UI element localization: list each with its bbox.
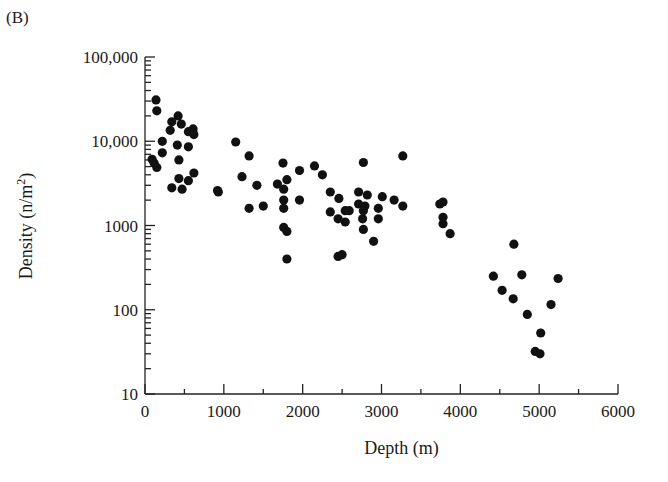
data-point bbox=[509, 240, 518, 249]
x-tick-label: 4000 bbox=[443, 402, 477, 421]
data-point bbox=[231, 137, 240, 146]
y-axis-title: Density (n/m2) bbox=[14, 173, 37, 280]
data-point bbox=[279, 185, 288, 194]
data-point bbox=[438, 219, 447, 228]
data-point bbox=[158, 137, 167, 146]
data-point bbox=[374, 204, 383, 213]
data-point bbox=[252, 181, 261, 190]
data-point bbox=[523, 310, 532, 319]
data-point bbox=[213, 186, 222, 195]
data-point bbox=[282, 254, 291, 263]
data-point bbox=[152, 163, 161, 172]
data-point bbox=[167, 117, 176, 126]
x-tick-label: 2000 bbox=[286, 402, 320, 421]
data-point bbox=[184, 176, 193, 185]
x-tick-label: 0 bbox=[141, 402, 150, 421]
data-point bbox=[554, 274, 563, 283]
data-point bbox=[173, 141, 182, 150]
data-point bbox=[378, 192, 387, 201]
data-point bbox=[184, 142, 193, 151]
data-point bbox=[363, 190, 372, 199]
y-tick-label: 1000 bbox=[104, 217, 138, 236]
data-point bbox=[341, 217, 350, 226]
data-point bbox=[326, 207, 335, 216]
data-point bbox=[189, 130, 198, 139]
data-point bbox=[318, 170, 327, 179]
data-point bbox=[279, 204, 288, 213]
data-point bbox=[359, 206, 368, 215]
data-point bbox=[489, 272, 498, 281]
data-point bbox=[334, 194, 343, 203]
data-point bbox=[279, 196, 288, 205]
data-point bbox=[358, 214, 367, 223]
data-point bbox=[438, 197, 447, 206]
x-tick-label: 3000 bbox=[365, 402, 399, 421]
data-points bbox=[148, 95, 563, 358]
data-point bbox=[245, 151, 254, 160]
data-point bbox=[310, 161, 319, 170]
data-point bbox=[166, 126, 175, 135]
data-point bbox=[359, 225, 368, 234]
data-point bbox=[498, 286, 507, 295]
data-point bbox=[359, 158, 368, 167]
data-point bbox=[345, 206, 354, 215]
data-point bbox=[174, 174, 183, 183]
data-point bbox=[369, 237, 378, 246]
data-point bbox=[398, 151, 407, 160]
data-point bbox=[338, 250, 347, 259]
data-point bbox=[374, 214, 383, 223]
data-point bbox=[278, 159, 287, 168]
y-tick-label: 100,000 bbox=[83, 48, 138, 67]
x-axis-title: Depth (m) bbox=[364, 438, 438, 459]
data-point bbox=[295, 196, 304, 205]
data-point bbox=[326, 187, 335, 196]
axes: 010002000300040005000600010100100010,000… bbox=[83, 48, 635, 421]
data-point bbox=[535, 349, 544, 358]
y-tick-label: 10 bbox=[121, 385, 138, 404]
data-point bbox=[354, 187, 363, 196]
data-point bbox=[390, 196, 399, 205]
data-point bbox=[398, 202, 407, 211]
data-point bbox=[259, 202, 268, 211]
data-point bbox=[536, 328, 545, 337]
data-point bbox=[174, 155, 183, 164]
data-point bbox=[151, 95, 160, 104]
y-tick-label: 100 bbox=[113, 301, 139, 320]
data-point bbox=[167, 183, 176, 192]
data-point bbox=[178, 185, 187, 194]
data-point bbox=[295, 166, 304, 175]
data-point bbox=[509, 294, 518, 303]
y-tick-label: 10,000 bbox=[91, 132, 138, 151]
scatter-chart: 010002000300040005000600010100100010,000… bbox=[0, 0, 668, 482]
data-point bbox=[282, 175, 291, 184]
data-point bbox=[517, 270, 526, 279]
data-point bbox=[177, 120, 186, 129]
x-tick-label: 5000 bbox=[522, 402, 556, 421]
data-point bbox=[237, 172, 246, 181]
data-point bbox=[446, 229, 455, 238]
x-tick-label: 6000 bbox=[601, 402, 635, 421]
data-point bbox=[546, 300, 555, 309]
data-point bbox=[152, 106, 161, 115]
data-point bbox=[245, 204, 254, 213]
data-point bbox=[158, 148, 167, 157]
x-tick-label: 1000 bbox=[207, 402, 241, 421]
data-point bbox=[282, 227, 291, 236]
data-point bbox=[189, 168, 198, 177]
